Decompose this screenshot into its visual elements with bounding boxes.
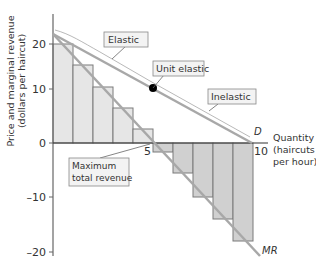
mr-label: MR [262,245,278,256]
unit-elastic-callout: Unit elastic [153,61,209,88]
y-tick-minus-20: –20 [27,246,47,259]
y-tick-0: 0 [39,137,46,150]
x-tick-5: 5 [144,145,151,158]
bar-10 [233,143,253,241]
demand-label: D [254,126,262,137]
bar-2 [73,65,93,143]
svg-text:Inelastic: Inelastic [211,91,251,102]
svg-text:Maximum: Maximum [72,161,116,171]
inelastic-callout: Inelastic [208,89,256,111]
marginal-revenue-elasticity-chart: 20 10 0 –10 –20 5 10 Price and marginal … [0,0,316,264]
y-tick-10: 10 [32,83,46,96]
bar-7 [173,143,193,173]
x-axis-label: Quantity (haircuts per hour) [273,132,316,167]
y-tick-minus-10: –10 [27,191,47,204]
bar-4 [113,108,133,143]
max-revenue-callout: Maximum total revenue [69,144,150,186]
x-tick-10: 10 [254,145,268,158]
svg-text:Price and marginal revenue: Price and marginal revenue [5,15,16,146]
y-tick-20: 20 [32,38,46,51]
svg-text:(haircuts: (haircuts [273,144,315,155]
svg-text:Elastic: Elastic [108,34,139,45]
bar-1 [53,44,73,143]
svg-text:(dollars per haircut): (dollars per haircut) [16,34,27,128]
svg-text:total revenue: total revenue [72,173,133,183]
svg-text:per hour): per hour) [273,156,316,167]
y-axis-label: Price and marginal revenue (dollars per … [5,15,27,146]
svg-text:Quantity: Quantity [273,132,314,143]
elastic-callout: Elastic [104,32,148,59]
svg-text:Unit elastic: Unit elastic [156,63,209,74]
